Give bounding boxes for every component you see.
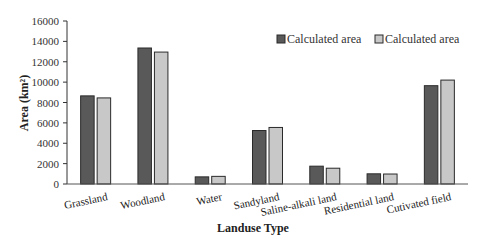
x-category-label: Cutivated field xyxy=(385,190,452,215)
legend-label-series-2: Calculated area xyxy=(385,32,460,46)
y-tick-label: 8000 xyxy=(37,97,60,109)
y-tick-label: 6000 xyxy=(37,117,60,129)
legend-label-series-1: Calculated area xyxy=(287,32,362,46)
bar-light-woodland xyxy=(154,52,168,184)
bar-dark-residential-land xyxy=(367,174,381,184)
bar-light-residential-land xyxy=(384,174,398,184)
x-axis-category-labels: GrasslandWoodlandWaterSandylandSaline-al… xyxy=(63,190,453,218)
y-axis-title: Area (km²) xyxy=(17,75,31,131)
bar-light-saline-alkali-land xyxy=(326,168,340,184)
bar-light-water xyxy=(212,176,226,184)
x-category-label: Woodland xyxy=(119,190,166,211)
y-tick-label: 2000 xyxy=(37,158,60,170)
legend-swatch-dark xyxy=(277,35,285,43)
bar-chart: 0200040006000800010000120001400016000 Gr… xyxy=(0,0,484,247)
y-tick-label: 14000 xyxy=(32,35,60,47)
legend-swatch-light xyxy=(375,35,383,43)
legend: Calculated area Calculated area xyxy=(277,32,460,46)
y-tick-label: 10000 xyxy=(32,76,60,88)
bar-dark-cutivated-field xyxy=(424,86,438,184)
bar-light-cutivated-field xyxy=(441,80,455,184)
bar-light-sandyland xyxy=(269,127,283,184)
x-category-label: Grassland xyxy=(63,190,109,211)
bar-dark-sandyland xyxy=(253,131,267,184)
bar-dark-grassland xyxy=(81,96,95,184)
y-tick-label: 12000 xyxy=(32,56,60,68)
bar-light-grassland xyxy=(97,98,111,184)
x-axis-title: Landuse Type xyxy=(217,221,290,235)
bar-dark-saline-alkali-land xyxy=(310,166,324,184)
x-category-label: Water xyxy=(195,190,223,207)
y-tick-label: 16000 xyxy=(32,15,60,27)
y-tick-label: 0 xyxy=(54,178,60,190)
bar-dark-water xyxy=(195,177,209,184)
bar-series xyxy=(81,48,455,184)
bar-dark-woodland xyxy=(138,48,152,184)
y-tick-label: 4000 xyxy=(37,137,60,149)
legend-item-series-1: Calculated area xyxy=(277,32,362,46)
y-axis-ticks: 0200040006000800010000120001400016000 xyxy=(32,15,68,190)
legend-item-series-2: Calculated area xyxy=(375,32,460,46)
